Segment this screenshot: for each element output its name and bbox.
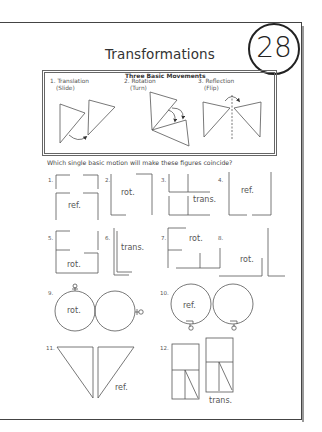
rotation-diagram xyxy=(150,92,189,146)
figure-9 xyxy=(55,284,143,331)
translation-diagram xyxy=(60,100,115,143)
figure-8 xyxy=(219,228,285,276)
figure-7 xyxy=(168,228,220,268)
figure-12 xyxy=(172,338,233,399)
reflection-diagram xyxy=(203,95,261,140)
figure-3 xyxy=(169,174,210,215)
figure-10 xyxy=(171,284,253,330)
figure-2 xyxy=(111,174,152,215)
figure-6 xyxy=(114,228,132,275)
figure-4 xyxy=(229,172,271,215)
figure-5 xyxy=(56,231,98,273)
figure-11 xyxy=(57,347,134,398)
figure-1 xyxy=(56,175,98,220)
figures-illustration xyxy=(0,0,322,432)
